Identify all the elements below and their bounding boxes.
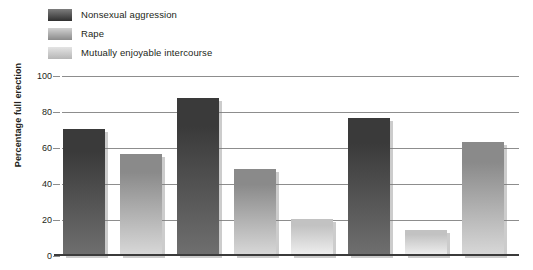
tick-mark-60: [53, 148, 60, 149]
y-axis-title: Percentage full erection: [13, 50, 23, 180]
chart-legend: Nonsexual aggression Rape Mutually enjoy…: [48, 5, 348, 62]
bar: [120, 154, 162, 255]
bar: [234, 169, 276, 255]
legend-item-0: Nonsexual aggression: [48, 5, 348, 24]
y-tick-label-60: 60: [26, 143, 52, 153]
gridline-80: [62, 112, 519, 113]
bar: [348, 118, 390, 255]
gridline-100: [62, 76, 519, 77]
bar: [462, 142, 504, 255]
bar: [177, 98, 219, 255]
tick-mark-100: [53, 76, 60, 77]
x-axis-baseline: [54, 254, 519, 256]
tick-mark-0: [53, 256, 60, 257]
y-tick-label-80: 80: [26, 107, 52, 117]
legend-label-nonsexual-aggression: Nonsexual aggression: [81, 9, 177, 20]
legend-item-1: Rape: [48, 24, 348, 43]
gridline-60: [62, 148, 519, 149]
bar: [405, 230, 447, 255]
plot-area: [62, 76, 519, 256]
tick-mark-20: [53, 220, 60, 221]
y-tick-label-40: 40: [26, 179, 52, 189]
legend-label-mutually-enjoyable-intercourse: Mutually enjoyable intercourse: [81, 47, 212, 58]
bar: [63, 129, 105, 255]
tick-mark-40: [53, 184, 60, 185]
y-tick-label-100: 100: [26, 71, 52, 81]
y-tick-label-20: 20: [26, 215, 52, 225]
y-tick-label-0: 0: [26, 251, 52, 261]
y-axis-tick-labels: 100806040200: [24, 0, 52, 270]
tick-mark-80: [53, 112, 60, 113]
bar: [291, 219, 333, 255]
chart-page: Nonsexual aggression Rape Mutually enjoy…: [0, 0, 533, 270]
legend-label-rape: Rape: [81, 28, 104, 39]
legend-item-2: Mutually enjoyable intercourse: [48, 43, 348, 62]
